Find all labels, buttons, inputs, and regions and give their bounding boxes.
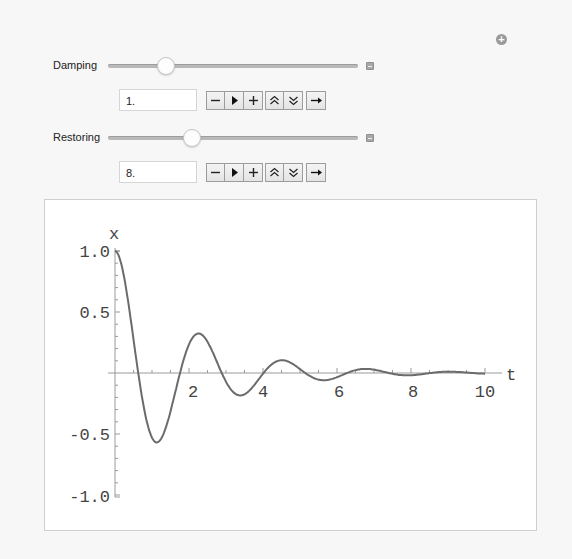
damped-oscillation-curve [115, 251, 485, 442]
y-tick-label: 0.5 [79, 304, 110, 323]
x-tick-label: 6 [334, 383, 344, 402]
plot-chart: x t 1.0 0.5 -0.5 -1.0 2 4 6 8 10 [0, 0, 572, 559]
x-axis-label: t [506, 366, 516, 385]
x-tick-label: 4 [258, 383, 268, 402]
x-tick-label: 8 [408, 383, 418, 402]
y-axis-label: x [109, 225, 119, 244]
y-tick-label: -1.0 [69, 488, 110, 507]
y-tick-label: -0.5 [69, 426, 110, 445]
x-tick-label: 10 [475, 383, 495, 402]
y-tick-label: 1.0 [79, 243, 110, 262]
x-tick-label: 2 [188, 383, 198, 402]
